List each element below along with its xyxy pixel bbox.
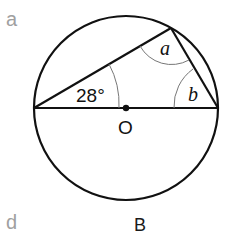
angle-a-label: a [160, 37, 170, 59]
angle-b-label: b [188, 83, 198, 105]
angle-arc-28 [109, 64, 119, 108]
center-point-O [123, 105, 129, 111]
circle-geometry-diagram: 28° a b O [0, 0, 229, 237]
angle-28-label: 28° [76, 85, 105, 106]
figure-caption: B [134, 216, 146, 234]
center-label-O: O [118, 117, 133, 138]
